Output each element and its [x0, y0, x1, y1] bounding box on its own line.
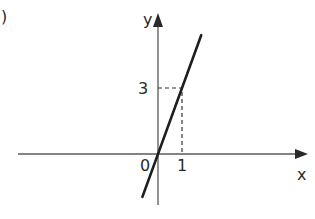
x-axis-label: x — [297, 165, 306, 184]
x-axis-arrow-icon — [295, 149, 308, 159]
part-label: ) — [1, 7, 7, 26]
graph-canvas: ) y x 0 1 3 — [0, 0, 315, 219]
function-line — [142, 35, 201, 197]
origin-label: 0 — [140, 156, 150, 175]
x-tick-label: 1 — [177, 156, 187, 175]
y-tick-label: 3 — [138, 79, 148, 98]
y-axis-label: y — [143, 10, 152, 29]
y-axis-arrow-icon — [153, 13, 163, 27]
